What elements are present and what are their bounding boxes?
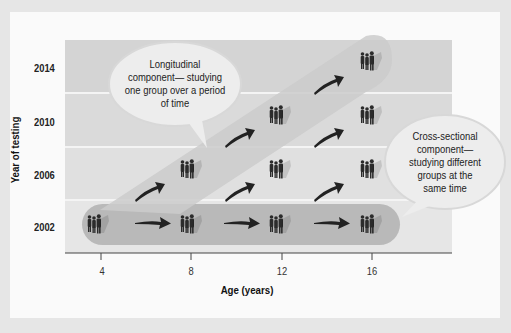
callout-line: of time bbox=[119, 97, 231, 110]
callout-line: component— studying bbox=[119, 71, 231, 84]
arrow-icon bbox=[225, 182, 255, 202]
x-tick-label: 12 bbox=[277, 265, 287, 277]
callout-line: Cross-sectional bbox=[397, 130, 492, 143]
y-tick-label: 2002 bbox=[34, 221, 55, 233]
x-tick-label: 4 bbox=[99, 265, 104, 277]
y-axis-title: Year of testing bbox=[9, 117, 21, 184]
people-group-icon-2006-age16 bbox=[361, 159, 382, 178]
arrow-icon bbox=[314, 128, 344, 148]
y-tick-label: 2014 bbox=[34, 62, 55, 74]
arrow-icon bbox=[314, 182, 344, 202]
callout-line: component— bbox=[397, 143, 492, 156]
y-tick-label: 2010 bbox=[34, 116, 55, 128]
longitudinal-callout-text: Longitudinal component— studying one gro… bbox=[119, 58, 231, 110]
x-tick-label: 8 bbox=[188, 265, 193, 277]
callout-line: Longitudinal bbox=[119, 58, 231, 71]
callout-line: one group over a period bbox=[119, 84, 231, 97]
x-tick-label: 16 bbox=[367, 265, 377, 277]
people-group-icon-2010-age16 bbox=[361, 105, 382, 124]
y-tick-label: 2006 bbox=[34, 169, 55, 181]
callout-line: same time bbox=[397, 182, 492, 195]
cross-sectional-callout-text: Cross-sectional component— studying diff… bbox=[397, 130, 492, 195]
people-group-icon-2006-age12 bbox=[270, 159, 291, 178]
x-axis-title: Age (years) bbox=[221, 284, 274, 296]
callout-line: studying different bbox=[397, 156, 492, 169]
callout-line: groups at the bbox=[397, 169, 492, 182]
